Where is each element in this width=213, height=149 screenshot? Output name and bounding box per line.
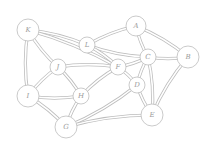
edges-layer [25, 26, 188, 127]
node-label: I [26, 92, 30, 100]
node-H: H [73, 88, 89, 104]
node-L: L [79, 37, 95, 53]
node-label: G [63, 123, 69, 131]
node-J: J [50, 59, 66, 75]
node-E: E [141, 104, 163, 126]
edge-J-F [58, 65, 118, 67]
node-F: F [110, 59, 126, 75]
node-label: H [77, 92, 85, 100]
node-C: C [140, 49, 156, 65]
node-B: B [177, 46, 199, 68]
node-label: L [84, 41, 90, 49]
node-I: I [17, 85, 39, 107]
node-label: B [184, 53, 190, 61]
node-label: A [132, 22, 138, 30]
graph-diagram: KALCBJFDIHEG [0, 0, 213, 149]
node-label: C [145, 53, 151, 61]
node-D: D [129, 77, 145, 93]
node-label: D [133, 81, 140, 89]
node-K: K [17, 19, 39, 41]
node-label: E [148, 111, 154, 119]
node-G: G [55, 116, 77, 138]
node-A: A [126, 16, 146, 36]
node-label: K [24, 26, 31, 34]
